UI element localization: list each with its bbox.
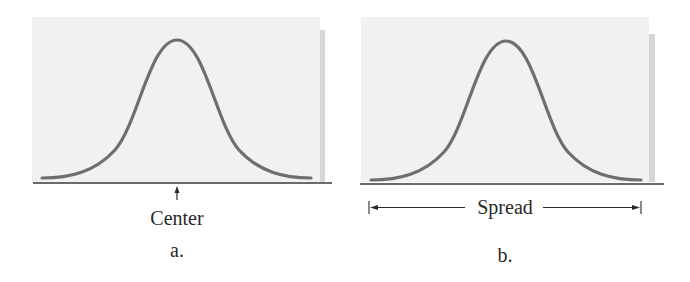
center-arrow-icon	[175, 186, 180, 200]
panel-b: Spread b.	[360, 17, 664, 266]
panel-a: Center a.	[32, 17, 332, 261]
panel-a-background	[32, 17, 320, 182]
center-label: Center	[150, 207, 204, 229]
distribution-figure: Center a. Spread b.	[0, 0, 690, 282]
panel-b-caption: b.	[498, 244, 513, 266]
spread-label: Spread	[477, 196, 533, 219]
panel-b-shadow	[648, 34, 655, 182]
panel-a-caption: a.	[170, 239, 184, 261]
